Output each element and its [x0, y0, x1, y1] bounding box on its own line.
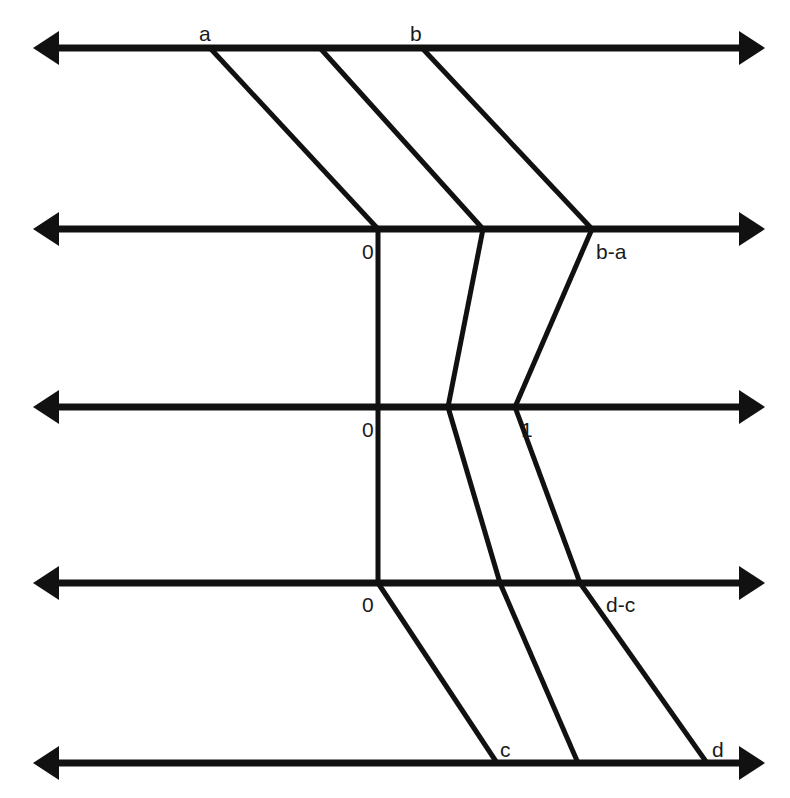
axis-tick-label: d — [712, 738, 724, 761]
axis-tick-label: 0 — [362, 593, 374, 616]
number-line-diagram: ab0b-a010d-ccd — [0, 0, 790, 798]
arrowhead-right-icon — [739, 566, 765, 600]
connector-line — [422, 48, 592, 229]
connector-line — [448, 407, 500, 583]
axis-tick-label: a — [199, 22, 211, 45]
number-line-axis — [33, 566, 765, 600]
connector-line — [500, 583, 578, 763]
number-line-axis — [33, 31, 765, 65]
connector-line — [210, 48, 378, 229]
connector-line — [448, 229, 483, 407]
axis-tick-label: c — [500, 738, 511, 761]
number-line-axis — [33, 390, 765, 424]
arrowhead-right-icon — [739, 31, 765, 65]
arrowhead-left-icon — [33, 390, 59, 424]
arrowhead-right-icon — [739, 746, 765, 780]
arrowhead-left-icon — [33, 746, 59, 780]
number-line-axis — [33, 212, 765, 246]
axis-tick-label: d-c — [606, 593, 635, 616]
connector-line — [378, 583, 497, 763]
arrowhead-right-icon — [739, 390, 765, 424]
arrowhead-left-icon — [33, 566, 59, 600]
axis-tick-label: 1 — [521, 418, 533, 441]
connector-line — [515, 229, 592, 407]
arrowhead-left-icon — [33, 212, 59, 246]
number-line-axis — [33, 746, 765, 780]
axis-tick-label: b-a — [596, 240, 627, 263]
arrowhead-left-icon — [33, 31, 59, 65]
diagram-canvas: ab0b-a010d-ccd — [0, 0, 790, 798]
connector-line — [320, 48, 483, 229]
axis-tick-label: 0 — [362, 240, 374, 263]
arrowhead-right-icon — [739, 212, 765, 246]
connector-line — [580, 583, 707, 763]
axis-tick-label: b — [410, 22, 422, 45]
axis-tick-label: 0 — [362, 418, 374, 441]
labels-group: ab0b-a010d-ccd — [199, 22, 724, 761]
axes-group — [33, 31, 765, 780]
